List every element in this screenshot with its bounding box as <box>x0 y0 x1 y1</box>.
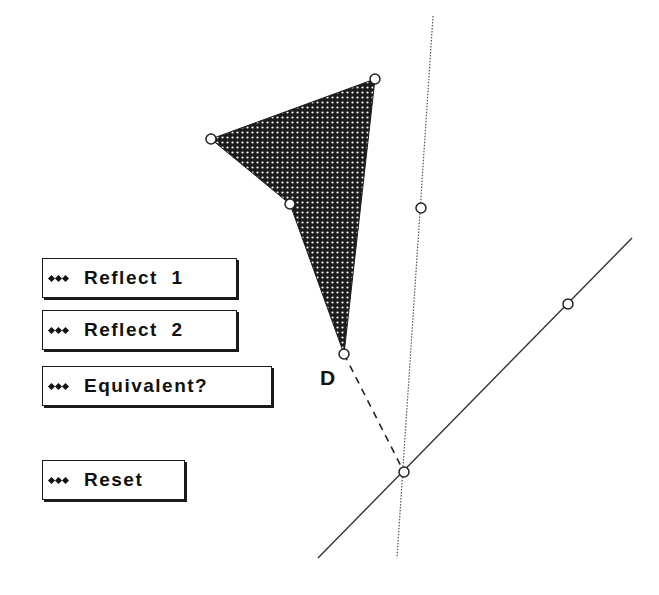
button-label: Reflect 1 <box>84 267 183 289</box>
diamond-dots-icon <box>49 384 68 389</box>
button-label: Equivalent? <box>84 375 208 397</box>
diamond-dots-icon <box>49 478 68 483</box>
mirror-line-2[interactable] <box>318 238 632 558</box>
polygon-vertex-left[interactable] <box>206 134 216 144</box>
dashed-segment <box>344 354 404 472</box>
button-label: Reflect 2 <box>84 319 183 341</box>
point-d[interactable] <box>339 349 349 359</box>
equivalent-button[interactable]: Equivalent? <box>42 366 272 406</box>
button-label: Reset <box>84 469 143 491</box>
reset-button[interactable]: Reset <box>42 460 185 500</box>
mirror-line-1-handle[interactable] <box>416 203 426 213</box>
point-label-d: D <box>320 366 335 390</box>
intersection-point[interactable] <box>399 467 409 477</box>
reflect-2-button[interactable]: Reflect 2 <box>42 310 237 350</box>
mirror-line-2-handle[interactable] <box>563 299 573 309</box>
polygon-vertex-inner[interactable] <box>285 199 295 209</box>
polygon-vertex-top[interactable] <box>370 74 380 84</box>
reflect-1-button[interactable]: Reflect 1 <box>42 258 237 298</box>
diamond-dots-icon <box>49 328 68 333</box>
diamond-dots-icon <box>49 276 68 281</box>
